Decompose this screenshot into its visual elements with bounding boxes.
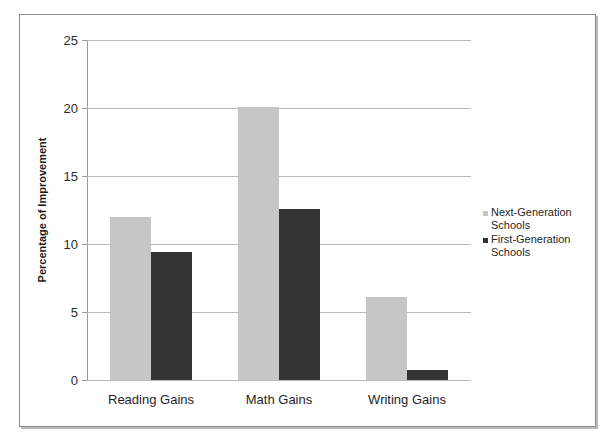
y-axis-line: [87, 40, 88, 381]
bar: [279, 209, 320, 380]
legend-swatch-icon: [483, 211, 488, 216]
bar: [151, 252, 192, 380]
y-axis-tick-mark: [82, 312, 87, 313]
legend-item: First-Generation Schools: [483, 233, 593, 259]
y-axis-title-label: Percentage of Improvement: [36, 138, 48, 283]
y-axis-tick-label: 10: [64, 237, 78, 252]
bar: [110, 217, 151, 380]
y-axis-tick-mark: [82, 380, 87, 381]
y-axis-title: Percentage of Improvement: [34, 40, 50, 380]
bar: [238, 107, 279, 380]
figure-frame: Percentage of Improvement 0510152025 Rea…: [19, 14, 596, 427]
legend: Next-Generation SchoolsFirst-Generation …: [483, 206, 593, 260]
y-axis-tick-mark: [82, 108, 87, 109]
bar-chart: Percentage of Improvement 0510152025 Rea…: [20, 15, 597, 428]
legend-label: First-Generation Schools: [491, 233, 593, 259]
gridline: [87, 176, 471, 177]
bar: [366, 297, 407, 380]
gridline: [87, 40, 471, 41]
plot-area: 0510152025 Reading GainsMath GainsWritin…: [87, 40, 471, 380]
y-axis-tick-mark: [82, 244, 87, 245]
y-axis-tick-mark: [82, 40, 87, 41]
x-axis-category-label: Writing Gains: [368, 392, 446, 407]
y-axis-tick-mark: [82, 176, 87, 177]
gridline: [87, 108, 471, 109]
legend-label: Next-Generation Schools: [491, 206, 593, 232]
x-axis-category-label: Reading Gains: [108, 392, 194, 407]
y-axis-tick-label: 15: [64, 169, 78, 184]
y-axis-tick-label: 0: [71, 373, 78, 388]
y-axis-tick-label: 25: [64, 33, 78, 48]
legend-swatch-icon: [483, 238, 488, 243]
legend-item: Next-Generation Schools: [483, 206, 593, 232]
x-axis-category-label: Math Gains: [246, 392, 312, 407]
gridline: [87, 380, 471, 381]
bar: [407, 370, 448, 380]
y-axis-tick-label: 5: [71, 305, 78, 320]
y-axis-tick-label: 20: [64, 101, 78, 116]
